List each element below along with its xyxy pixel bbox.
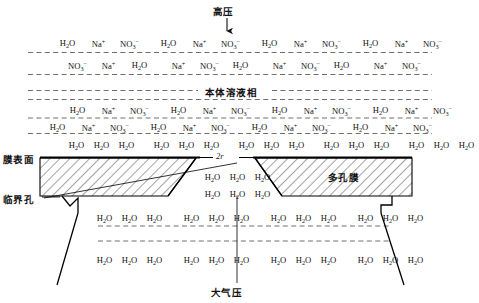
solution-row: H2ONa+NO3−H2ONa+NO3−H2ONa+NO3−H2ONa+NO3−	[52, 38, 448, 50]
species-h2o: H2O	[229, 255, 254, 266]
species-h2o: H2O	[319, 140, 344, 151]
species-h2o: H2O	[316, 255, 341, 266]
species-h2o: H2O	[429, 140, 454, 151]
species-h2o: H2O	[378, 213, 403, 224]
species-h2o: H2O	[365, 105, 396, 117]
species-no3: NO3−	[316, 38, 347, 50]
species-no3: NO3−	[396, 60, 427, 72]
species-h2o: H2O	[291, 255, 316, 266]
species-no3: NO3−	[114, 38, 145, 50]
species-h2o: H2O	[378, 255, 403, 266]
species-h2o: H2O	[326, 60, 357, 72]
porous-membrane-label: 多孔膜	[328, 170, 359, 184]
species-h2o: H2O	[174, 140, 199, 151]
water-row: H2OH2OH2OH2OH2OH2OH2OH2OH2OH2OH2OH2OH2OH…	[64, 140, 479, 151]
species-na: Na+	[174, 122, 205, 134]
species-no3: NO3−	[427, 105, 458, 117]
species-no3: NO3−	[124, 105, 155, 117]
pore-diameter-label: 2r	[216, 151, 224, 161]
species-no3: NO3−	[407, 122, 438, 134]
species-h2o: H2O	[62, 105, 93, 117]
species-h2o: H2O	[229, 213, 254, 224]
species-na: Na+	[376, 122, 407, 134]
species-no3: NO3−	[225, 105, 256, 117]
species-h2o: H2O	[403, 213, 428, 224]
species-no3: NO3−	[326, 105, 357, 117]
water-row: H2OH2OH2OH2OH2OH2OH2OH2OH2OH2OH2OH2O	[92, 255, 428, 266]
species-h2o: H2O	[353, 255, 378, 266]
species-h2o: H2O	[454, 140, 479, 151]
species-h2o: H2O	[42, 122, 73, 134]
species-h2o: H2O	[149, 140, 174, 151]
species-h2o: H2O	[284, 140, 309, 151]
membrane-surface-label: 膜表面	[3, 152, 34, 166]
species-na: Na+	[275, 122, 306, 134]
species-no3: NO3−	[417, 38, 448, 50]
species-na: Na+	[386, 38, 417, 50]
species-na: Na+	[365, 60, 396, 72]
species-h2o: H2O	[199, 140, 224, 151]
solution-row: H2ONa+NO3−H2ONa+NO3−H2ONa+NO3−H2ONa+NO3−	[62, 105, 458, 117]
membrane-left-notch	[57, 196, 78, 285]
critical-pore-label: 临界孔	[3, 192, 34, 206]
species-h2o: H2O	[204, 255, 229, 266]
species-h2o: H2O	[52, 38, 83, 50]
species-h2o: H2O	[250, 189, 275, 200]
species-h2o: H2O	[89, 140, 114, 151]
species-h2o: H2O	[200, 189, 225, 200]
species-h2o: H2O	[92, 213, 117, 224]
water-row: H2OH2OH2OH2OH2OH2OH2OH2OH2OH2OH2OH2O	[92, 213, 428, 224]
atmospheric-pressure-label: 大气压	[211, 285, 242, 299]
species-h2o: H2O	[345, 122, 376, 134]
species-h2o: H2O	[142, 213, 167, 224]
species-no3: NO3−	[194, 60, 225, 72]
bulk-solution-label: 本体溶液相	[202, 85, 260, 99]
water-row: H2OH2OH2O	[200, 172, 275, 183]
species-na: Na+	[184, 38, 215, 50]
species-h2o: H2O	[225, 172, 250, 183]
species-na: Na+	[194, 105, 225, 117]
species-h2o: H2O	[204, 213, 229, 224]
species-na: Na+	[93, 105, 124, 117]
species-h2o: H2O	[143, 122, 174, 134]
species-h2o: H2O	[403, 255, 428, 266]
species-h2o: H2O	[254, 38, 285, 50]
species-h2o: H2O	[355, 38, 386, 50]
species-h2o: H2O	[124, 60, 155, 72]
solution-row: NO3−Na+H2ONa+NO3−H2ONa+NO3−H2ONa+NO3−	[62, 60, 427, 72]
species-h2o: H2O	[344, 140, 369, 151]
species-h2o: H2O	[179, 213, 204, 224]
species-h2o: H2O	[142, 255, 167, 266]
species-h2o: H2O	[369, 140, 394, 151]
species-no3: NO3−	[215, 38, 246, 50]
solution-row: H2ONa+NO3−H2ONa+NO3−H2ONa+NO3−H2ONa+NO3−	[42, 122, 438, 134]
species-h2o: H2O	[234, 140, 259, 151]
species-no3: NO3−	[205, 122, 236, 134]
species-na: Na+	[285, 38, 316, 50]
species-h2o: H2O	[64, 140, 89, 151]
species-h2o: H2O	[266, 213, 291, 224]
species-no3: NO3−	[295, 60, 326, 72]
membrane-right-notch	[381, 196, 404, 285]
species-h2o: H2O	[264, 105, 295, 117]
species-h2o: H2O	[225, 60, 256, 72]
species-h2o: H2O	[266, 255, 291, 266]
species-h2o: H2O	[163, 105, 194, 117]
species-na: Na+	[295, 105, 326, 117]
species-h2o: H2O	[179, 255, 204, 266]
species-no3: NO3−	[104, 122, 135, 134]
species-no3: NO3−	[306, 122, 337, 134]
species-h2o: H2O	[244, 122, 275, 134]
species-h2o: H2O	[250, 172, 275, 183]
species-na: Na+	[163, 60, 194, 72]
species-no3: NO3−	[62, 60, 93, 72]
species-h2o: H2O	[153, 38, 184, 50]
species-na: Na+	[396, 105, 427, 117]
high-pressure-label: 高压	[213, 4, 234, 18]
species-na: Na+	[73, 122, 104, 134]
species-h2o: H2O	[291, 213, 316, 224]
species-h2o: H2O	[114, 140, 139, 151]
species-h2o: H2O	[92, 255, 117, 266]
species-h2o: H2O	[117, 213, 142, 224]
